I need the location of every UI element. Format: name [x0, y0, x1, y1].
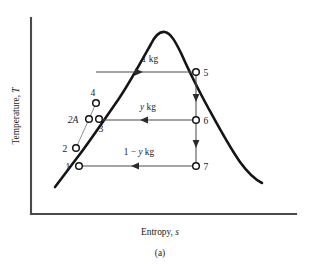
arrow-right-4-5: [135, 69, 143, 76]
dome-curve: [55, 32, 262, 187]
figure-container: 1 2 2A 3 4 5 6 7 1 kg y kg 1 − y kg Temp…: [0, 0, 311, 266]
state-label-6: 6: [204, 115, 209, 126]
state-point-6[interactable]: [193, 117, 200, 124]
arrow-left-6-3: [140, 117, 148, 124]
line-2-2A-4: [76, 103, 96, 148]
y-axis-title: Temperature, T: [11, 87, 21, 145]
state-point-4[interactable]: [93, 100, 100, 107]
state-point-2[interactable]: [73, 145, 80, 152]
arrow-down-6-7: [193, 140, 200, 148]
state-point-1[interactable]: [76, 163, 83, 170]
process-7-to-1-group: [79, 163, 196, 170]
state-point-2a[interactable]: [86, 116, 93, 123]
feedwater-path-group: [76, 103, 96, 148]
state-label-2a: 2A: [68, 114, 79, 125]
process-4-to-5-group: [96, 69, 196, 76]
x-axis-title: Entropy, s: [141, 227, 179, 237]
process-6-to-3-group: [99, 117, 196, 124]
saturation-dome-group: [55, 32, 262, 187]
mass-annotations-group: 1 kg y kg 1 − y kg: [124, 54, 159, 157]
mass-label-1kg: 1 kg: [142, 54, 159, 64]
axis-titles-group: Temperature, T Entropy, s (a): [11, 87, 179, 259]
arrow-left-7-1: [131, 163, 139, 170]
state-label-5: 5: [204, 67, 209, 78]
state-point-3[interactable]: [96, 116, 103, 123]
state-label-7: 7: [204, 161, 209, 172]
mass-label-1-minus-y-kg: 1 − y kg: [124, 147, 155, 157]
mass-label-y-kg: y kg: [139, 102, 156, 112]
state-point-7[interactable]: [193, 163, 200, 170]
state-label-1: 1: [66, 161, 71, 172]
state-label-4: 4: [91, 87, 96, 98]
state-label-3: 3: [99, 123, 104, 134]
state-label-2: 2: [63, 143, 68, 154]
ts-diagram: 1 2 2A 3 4 5 6 7 1 kg y kg 1 − y kg Temp…: [0, 0, 311, 266]
arrow-down-5-6: [193, 94, 200, 102]
state-point-5[interactable]: [193, 69, 200, 76]
figure-caption: (a): [155, 248, 165, 259]
